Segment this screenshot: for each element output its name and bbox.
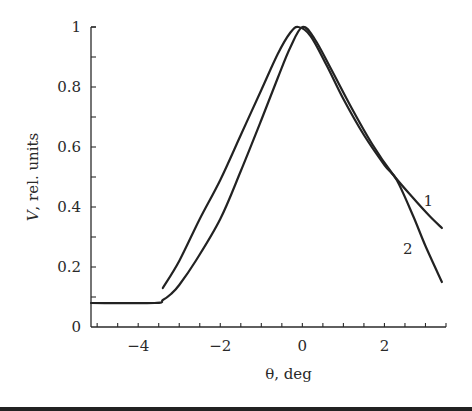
y-tick-label: 0.4 (57, 198, 81, 216)
curves (91, 27, 442, 303)
bottom-border (0, 407, 472, 411)
x-tick-label: 0 (298, 337, 308, 355)
curve-label-2: 2 (403, 240, 413, 258)
curve-2 (163, 27, 442, 288)
x-tick-label: 2 (380, 337, 390, 355)
x-tick-label: −2 (209, 337, 231, 355)
chart: −4−20200.20.40.60.81θ, degV, rel. units1… (0, 0, 472, 411)
x-tick-label: −4 (127, 337, 149, 355)
y-tick-label: 1 (71, 18, 81, 36)
x-axis-label: θ, deg (265, 365, 312, 383)
y-tick-label: 0 (71, 318, 81, 336)
curve-label-1: 1 (423, 192, 433, 210)
y-tick-label: 0.2 (57, 258, 81, 276)
y-axis-label: V, rel. units (24, 133, 42, 222)
curve-1 (91, 27, 442, 303)
y-tick-label: 0.6 (57, 138, 81, 156)
y-tick-label: 0.8 (57, 78, 81, 96)
